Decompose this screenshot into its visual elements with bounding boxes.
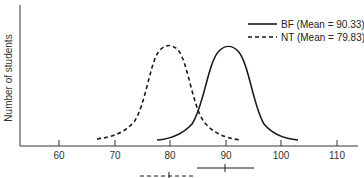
nt-error-bar (140, 172, 195, 178)
tick-label-100: 100 (273, 150, 290, 161)
x-tick-labels: 60 70 80 90 100 110 (53, 150, 345, 161)
legend-nt-label: NT (Mean = 79.83) (281, 32, 364, 43)
x-ticks (59, 140, 337, 146)
distribution-chart: Number of students 60 70 80 90 100 110 B… (0, 0, 364, 178)
tick-label-90: 90 (220, 150, 232, 161)
nt-curve (97, 46, 240, 141)
y-axis-label: Number of students (3, 34, 14, 121)
tick-label-70: 70 (109, 150, 121, 161)
bf-error-bar (197, 164, 254, 172)
tick-label-60: 60 (53, 150, 65, 161)
bf-curve (157, 47, 298, 141)
tick-label-80: 80 (164, 150, 176, 161)
legend: BF (Mean = 90.33) NT (Mean = 79.83) (248, 19, 364, 43)
legend-bf-label: BF (Mean = 90.33) (281, 19, 364, 30)
tick-label-110: 110 (329, 150, 345, 161)
